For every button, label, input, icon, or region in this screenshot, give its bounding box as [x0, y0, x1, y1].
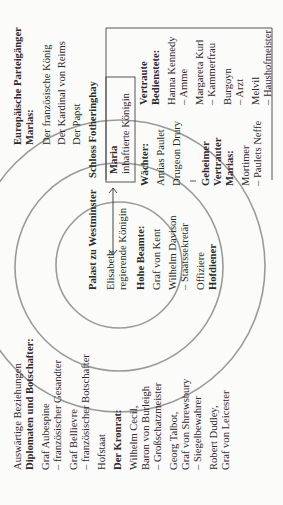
list-item: Graf von Kent [151, 190, 163, 290]
list-item: Drugeon Drury [171, 121, 183, 186]
list-item: – französischer Botschafter [80, 338, 92, 470]
list-item: Hanna Kennedy [166, 30, 178, 105]
list-item: Der französische König [41, 27, 56, 145]
list-item: Graf Bellievre [68, 338, 80, 470]
supporters-heading: Marias: [24, 27, 36, 145]
queen-name: Elisabeth [105, 190, 117, 290]
diplomats-heading: Diplomaten und Botschafter: [24, 338, 36, 470]
list-item: – Großschatzmeister [152, 338, 164, 470]
list-item: Der Papst [71, 27, 86, 145]
relationship-diagram: Auswärtige Beziehungen Diplomaten und Bo… [0, 0, 283, 505]
court-heading: Hofstaat [96, 338, 108, 470]
list-item: Graf Aubespine [40, 338, 52, 470]
officers: Offiziere [195, 190, 207, 290]
list-item: Burgoyn [222, 30, 234, 105]
prisoner-name: Maria [108, 93, 120, 174]
fotheringhay-title: Schloss Fotheringhay [87, 81, 99, 178]
list-item: Mortimer [240, 121, 252, 186]
list-item: – französischer Gesandter [52, 338, 64, 470]
foreign-relations: Auswärtige Beziehungen Diplomaten und Bo… [12, 338, 232, 470]
supporters-heading: Europäische Parteigänger [12, 27, 24, 145]
foreign-heading: Auswärtige Beziehungen [12, 338, 24, 470]
list-item: – Arzt [234, 30, 246, 105]
list-item: Wilhelm Cecil, [128, 338, 140, 470]
list-item: Robert Dudley, [208, 338, 220, 470]
list-item: Amias Paulet [155, 121, 167, 186]
court-servants: Hofdiener [207, 190, 219, 290]
prisoner-role: inhaftierte Königin [120, 93, 132, 174]
officials-heading: Hohe Beamte: [135, 190, 147, 290]
list-item: Graf von Leicester [220, 338, 232, 470]
list-item: – Siegelbewahrer [192, 338, 204, 470]
queen-role: regierende Königin [117, 190, 129, 290]
trusted-servants: Vertraute Bedienstete: Hanna Kennedy – A… [138, 30, 274, 105]
list-item: Der Kardinal von Reims [56, 27, 71, 145]
guards: Wächter: Amias Paulet Drugeon Drury Gehe… [139, 121, 264, 186]
castle-title: Schloss Fotheringhay [87, 81, 99, 178]
list-item: – Amme [178, 30, 190, 105]
guards-heading: Wächter: [139, 121, 151, 186]
list-item: – Staatssekretär [179, 190, 191, 290]
confidant-heading: Vertrauter [212, 121, 224, 186]
maria-label: Maria inhaftierte Königin [108, 93, 132, 174]
list-item: – Paulets Neffe [252, 121, 264, 186]
list-item: – Haushofmeister [262, 30, 274, 105]
council-heading: Der Kronrat: [112, 338, 124, 470]
confidant-heading: Marias: [224, 121, 236, 186]
list-item: Wilhelm Davison [167, 190, 179, 290]
list-item: Margareta Kurl [194, 30, 206, 105]
list-item: Graf von Shrewsbury [180, 338, 192, 470]
servants-heading: Bedienstete: [150, 30, 162, 105]
confidant-heading: Geheimer [200, 121, 212, 186]
westminster: Palast zu Westminster Elisabeth regieren… [87, 190, 219, 290]
list-item: Melvil [250, 30, 262, 105]
list-item: – Kammerfrau [206, 30, 218, 105]
list-item: Georg Talbot, [168, 338, 180, 470]
european-supporters: Europäische Parteigänger Marias: Der fra… [12, 27, 86, 145]
westminster-title: Palast zu Westminster [87, 190, 99, 290]
list-item: Baron von Burleigh [140, 338, 152, 470]
servants-heading: Vertraute [138, 30, 150, 105]
